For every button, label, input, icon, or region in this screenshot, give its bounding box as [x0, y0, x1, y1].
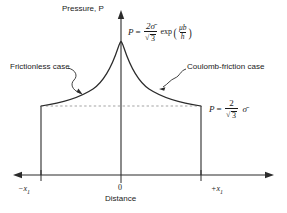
- plateau-pressure-equation: P = 2 √3 σ̄: [209, 99, 247, 120]
- x-tick-label-right: +x1: [211, 185, 223, 195]
- exponent-fraction: μb h: [178, 24, 188, 41]
- x-axis: [13, 172, 274, 178]
- plateau-radical-argument: 3: [231, 111, 237, 120]
- exponent-denominator: h: [180, 32, 186, 41]
- pressure-distribution-figure: Pressure, P Distance −x1 0 +x1 Frictionl…: [0, 0, 287, 213]
- peak-eq-denominator: √3: [144, 31, 157, 43]
- coulomb-leader-line: [159, 69, 186, 91]
- peak-eq-fraction: 2σ̄ √3: [144, 22, 157, 43]
- peak-eq-equals: =: [136, 28, 141, 37]
- radical-argument: 3: [150, 34, 156, 43]
- y-axis-title: Pressure, P: [62, 5, 104, 13]
- exponent-numerator: μb: [178, 24, 188, 32]
- coulomb-leader-squiggle: [163, 69, 186, 87]
- peak-eq-numerator-text: 2σ̄: [146, 21, 155, 31]
- coulomb-leader-arrowhead: [159, 87, 165, 91]
- peak-eq-lhs: P: [128, 28, 134, 37]
- frictionless-leader-arrowhead: [77, 89, 83, 96]
- x-axis-right-arrowhead: [265, 172, 274, 178]
- zero-label: 0: [118, 183, 122, 192]
- x-subscript-right: 1: [220, 189, 223, 195]
- sqrt-group: √3: [145, 34, 156, 43]
- y-axis: [118, 10, 124, 175]
- frictionless-case-label: Frictionless case: [10, 63, 70, 71]
- x-tick-label-left: −x1: [18, 185, 30, 195]
- exp-open-paren: (: [173, 26, 176, 39]
- exp-function-name: exp: [160, 28, 172, 36]
- plateau-eq-lhs: P: [209, 105, 215, 114]
- y-axis-arrowhead: [118, 10, 124, 19]
- exp-close-paren: ): [189, 26, 192, 39]
- plateau-eq-sigma: σ̄: [242, 105, 246, 114]
- coulomb-friction-case-label: Coulomb-friction case: [187, 63, 264, 71]
- plateau-eq-fraction: 2 √3: [225, 99, 238, 120]
- frictionless-leader-line: [68, 68, 83, 95]
- x-subscript-left: 1: [27, 189, 30, 195]
- peak-eq-numerator: 2σ̄: [145, 22, 156, 31]
- x-tick-label-center: 0: [118, 184, 122, 192]
- plateau-sqrt-group: √3: [226, 111, 237, 120]
- plateau-eq-equals: =: [217, 105, 222, 114]
- x-axis-left-arrowhead: [13, 172, 22, 178]
- x-axis-title: Distance: [105, 195, 136, 203]
- plateau-eq-numerator: 2: [228, 99, 235, 108]
- plateau-eq-denominator: √3: [225, 108, 238, 120]
- peak-pressure-equation: P = 2σ̄ √3 exp ( μb h ): [128, 22, 192, 43]
